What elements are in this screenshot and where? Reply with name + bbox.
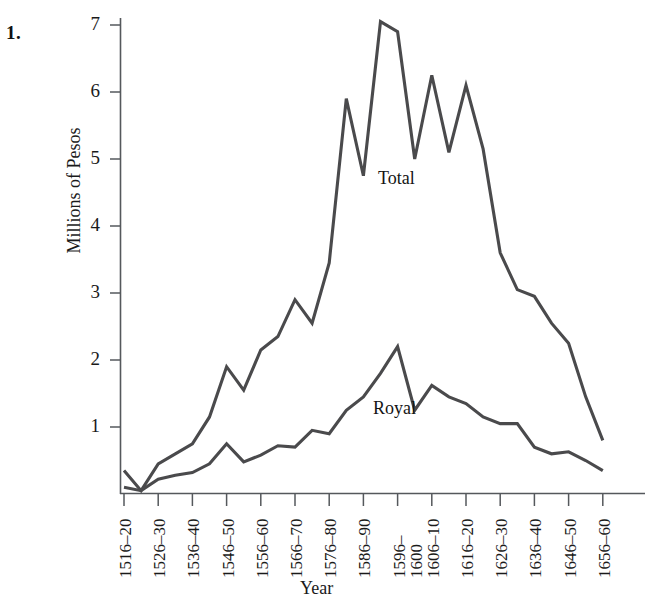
line-chart: 1234567 1516–201526–301536–401546–501556… (0, 0, 661, 607)
x-tick-label: 1656–60 (596, 519, 613, 579)
x-tick-label: 1636–40 (527, 519, 544, 579)
x-tick-label: 1566–70 (288, 519, 305, 579)
x-tick-label: 1626–30 (493, 519, 510, 579)
series-paths (124, 22, 603, 491)
x-tick-label: 1596– (391, 536, 408, 579)
x-tick-label: 1516–20 (117, 519, 134, 579)
x-tick-label: 1586–90 (356, 519, 373, 579)
x-tick-label: 1600 (408, 544, 425, 578)
y-tick-label: 1 (70, 416, 100, 435)
series-line-total (124, 22, 603, 491)
x-axis-label: Year (300, 578, 333, 599)
x-tick-marks (124, 494, 603, 506)
x-tick-label: 1616–20 (459, 519, 476, 579)
x-tick-label: 1526–30 (151, 519, 168, 579)
x-tick-label: 1536–40 (185, 519, 202, 579)
x-tick-label: 1606–10 (425, 519, 442, 579)
x-tick-label: 1576–80 (322, 519, 339, 579)
y-tick-marks (110, 25, 121, 427)
y-tick-label: 6 (70, 81, 100, 100)
x-tick-label: 1646–50 (562, 519, 579, 579)
series-annotation: Royal (373, 398, 416, 419)
y-axis-label: Millions of Pesos (64, 111, 85, 271)
axes (120, 18, 645, 494)
y-tick-label: 7 (70, 14, 100, 33)
figure-page: 1. 1234567 1516–201526–301536–401546–501… (0, 0, 661, 607)
series-line-royal (124, 347, 603, 491)
x-tick-label: 1556–60 (254, 519, 271, 579)
series-annotation: Total (378, 168, 415, 189)
y-tick-label: 2 (70, 349, 100, 368)
y-tick-label: 3 (70, 282, 100, 301)
x-tick-label: 1546–50 (220, 519, 237, 579)
